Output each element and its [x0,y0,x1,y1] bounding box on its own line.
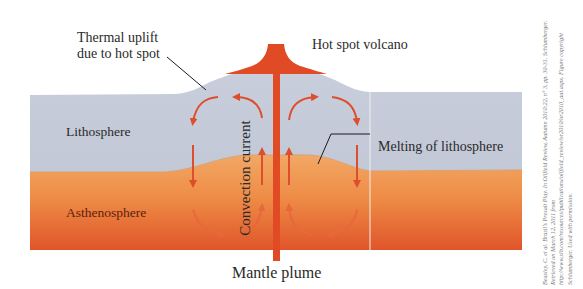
hot-spot-volcano-label: Hot spot volcano [312,37,408,52]
melting-of-lithosphere-label: Melting of lithosphere [378,139,503,154]
asthenosphere-label: Asthenosphere [66,206,146,221]
mantle-plume-stem [273,60,280,261]
thermal-uplift-label-line2: due to hot spot [77,46,160,62]
figure-credit: Beasley, C. et al. Brazil's Presalt Play… [541,5,574,285]
thermal-uplift-label: Thermal uplift due to hot spot [77,30,160,62]
mantle-plume-label: Mantle plume [232,264,321,282]
hot-spot-diagram: Thermal uplift due to hot spot Hot spot … [0,0,583,289]
lithosphere-label: Lithosphere [66,125,130,140]
thermal-uplift-label-line1: Thermal uplift [77,30,160,46]
uplift-leader-line [167,57,206,90]
convection-current-label: Convection current [237,120,254,235]
